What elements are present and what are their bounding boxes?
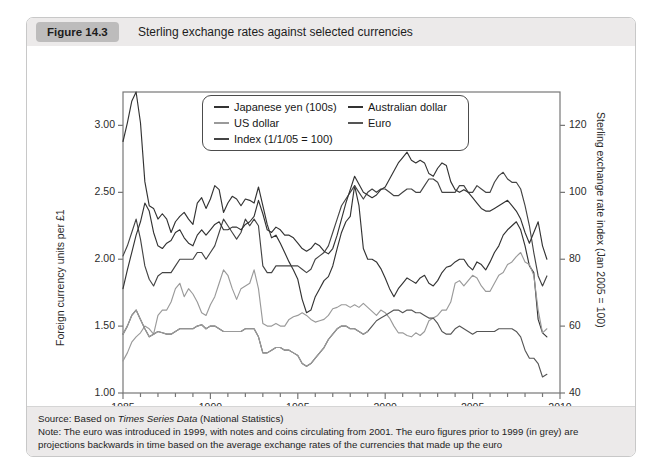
legend-swatch-japanese-yen xyxy=(214,106,229,108)
source-prefix: Source: Based on xyxy=(38,413,118,424)
series-line-us-dollar xyxy=(123,253,547,361)
source-italic-title: Times Series Data xyxy=(118,413,198,424)
figure-note: Note: The euro was introduced in 1999, w… xyxy=(38,425,624,451)
legend-swatch-index xyxy=(214,138,229,140)
plot-area: Foreign currency units per £1 Sterling e… xyxy=(27,46,636,408)
y-tick-label-right: 40 xyxy=(569,386,603,398)
figure-number-badge: Figure 14.3 xyxy=(36,22,119,42)
y-tick-label-right: 100 xyxy=(569,185,603,197)
figure-title: Sterling exchange rates against selected… xyxy=(138,22,413,42)
legend-swatch-australian-dollar xyxy=(348,106,363,108)
legend-label-japanese-yen: Japanese yen (100s) xyxy=(234,101,337,113)
legend-item-japanese-yen: Japanese yen (100s) xyxy=(214,101,337,113)
legend-label-index: Index (1/1/05 = 100) xyxy=(234,133,333,145)
y-tick-label-left: 2.50 xyxy=(75,185,115,197)
chart-legend: Japanese yen (100s) US dollar Index (1/1… xyxy=(202,95,469,151)
figure-footer: Source: Based on Times Series Data (Nati… xyxy=(27,406,635,456)
y-tick-label-left: 1.50 xyxy=(75,319,115,331)
y-tick-label-right: 120 xyxy=(569,118,603,130)
source-suffix: (National Statistics) xyxy=(197,413,283,424)
legend-swatch-euro xyxy=(348,122,363,124)
figure-source: Source: Based on Times Series Data (Nati… xyxy=(38,412,624,425)
y-tick-label-left: 3.00 xyxy=(75,118,115,130)
figure-header: Figure 14.3 Sterling exchange rates agai… xyxy=(27,18,635,47)
legend-item-index: Index (1/1/05 = 100) xyxy=(214,133,333,145)
y-tick-label-right: 80 xyxy=(569,252,603,264)
legend-label-australian-dollar: Australian dollar xyxy=(368,101,447,113)
series-line-euro xyxy=(123,310,547,377)
legend-item-australian-dollar: Australian dollar xyxy=(348,101,447,113)
legend-item-us-dollar: US dollar xyxy=(214,117,279,129)
y-tick-label-left: 2.00 xyxy=(75,252,115,264)
figure-card: Figure 14.3 Sterling exchange rates agai… xyxy=(26,17,636,457)
legend-item-euro: Euro xyxy=(348,117,391,129)
legend-label-us-dollar: US dollar xyxy=(234,117,279,129)
legend-swatch-us-dollar xyxy=(214,122,229,124)
legend-label-euro: Euro xyxy=(368,117,391,129)
series-line-index-1-1-05-100 xyxy=(123,172,547,286)
series-line-australian-dollar xyxy=(123,152,547,288)
series-line-euro-projection xyxy=(123,310,368,366)
y-tick-label-left: 1.00 xyxy=(75,386,115,398)
y-tick-label-right: 60 xyxy=(569,319,603,331)
